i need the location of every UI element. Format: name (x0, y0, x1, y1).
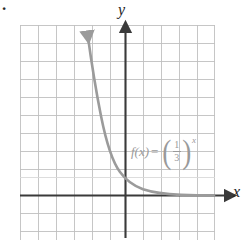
graph-canvas (0, 0, 246, 240)
formula-open-paren: ( (163, 138, 172, 165)
formula-function-name: f(x) (131, 145, 149, 158)
formula-exponent: x (192, 136, 196, 145)
exponential-graph-figure: . (0, 0, 246, 240)
formula-numerator: 1 (174, 140, 179, 151)
exponential-decay-curve (87, 33, 212, 196)
y-axis-label: y (118, 1, 125, 19)
formula-fraction: 1 3 (173, 140, 181, 164)
formula-equals-sign: = (151, 145, 158, 158)
x-axis-label: x (233, 183, 240, 201)
function-curve-group (87, 33, 212, 196)
function-formula-label: f(x) = ( 1 3 ) x (131, 138, 196, 165)
formula-close-paren: ) (182, 138, 191, 165)
formula-denominator: 3 (174, 153, 179, 164)
